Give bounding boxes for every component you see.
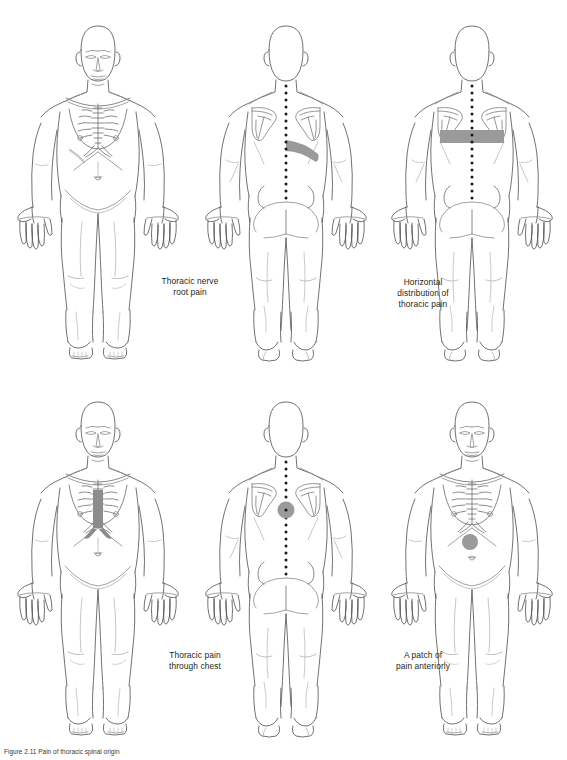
sternum-ribcage-detail [78, 104, 118, 157]
pain-marking-epigastric-patch [462, 534, 478, 550]
spine-dotted-line [285, 85, 288, 200]
body-figure-anterior-top-left [8, 12, 188, 372]
hand-right [518, 583, 552, 625]
hand-left [392, 207, 426, 249]
spine-dotted-line [471, 85, 474, 200]
scapula-right [296, 484, 320, 517]
body-diagram-grid: Thoracic nerve root pain Horizontal dist… [0, 0, 567, 760]
head-posterior [264, 402, 308, 457]
sternum-ribcage-detail [452, 480, 492, 533]
caption-horizontal-distribution: Horizontal distribution of thoracic pain [368, 277, 478, 310]
hand-left [18, 583, 52, 625]
hand-left [392, 583, 426, 625]
pain-marking-round-spot [278, 502, 295, 519]
head-anterior [76, 26, 120, 86]
body-figure-anterior-bottom-right [382, 388, 562, 748]
head-anterior [76, 402, 120, 462]
hand-left [18, 207, 52, 249]
pain-marking-oblique-band [286, 140, 319, 162]
plate-caption: Figure 2.11 Pain of thoracic spinal orig… [4, 748, 120, 756]
hand-right [332, 207, 366, 249]
body-figure-anterior-bottom-left [8, 388, 188, 748]
hand-left [206, 207, 240, 249]
hand-right [518, 207, 552, 249]
head-anterior [450, 402, 494, 462]
scapula-right [296, 108, 320, 141]
hand-right [332, 583, 366, 625]
head-posterior [450, 26, 494, 81]
body-figure-posterior-bottom-center [196, 388, 376, 748]
caption-patch-of-pain-anteriorly: A patch of pain anteriorly [368, 650, 478, 672]
body-figure-posterior-top-right [382, 12, 562, 372]
head-posterior [264, 26, 308, 81]
hand-right [144, 207, 178, 249]
hand-left [206, 583, 240, 625]
scapula-left [252, 108, 276, 141]
scapula-left [252, 484, 276, 517]
caption-thoracic-nerve-root-pain: Thoracic nerve root pain [140, 276, 240, 298]
hand-right [144, 583, 178, 625]
body-figure-posterior-top-center [196, 12, 376, 372]
caption-thoracic-pain-through-chest: Thoracic pain through chest [140, 650, 250, 672]
